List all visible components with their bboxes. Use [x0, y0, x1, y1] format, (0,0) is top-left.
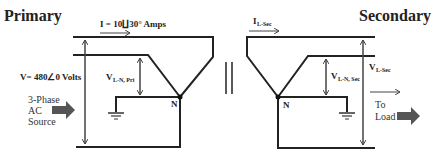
secondary-title: Secondary [359, 7, 431, 25]
secondary-vln-label: V [331, 71, 338, 81]
load-label-line2: Load [375, 111, 396, 122]
primary-title: Primary [4, 7, 62, 25]
secondary-current-subscript: L-Sec [257, 21, 272, 27]
diagram-svg: Primary I = 10∐30° Amps N V= 480∠0 Volts [0, 0, 437, 158]
load-label-line1: To [375, 99, 385, 110]
secondary-winding [247, 37, 375, 148]
ground-icon [339, 113, 355, 119]
source-label-line2: AC [28, 105, 42, 116]
ground-icon [108, 113, 124, 119]
secondary-vln-subscript: L-N, Sec [338, 76, 360, 82]
primary-vln-label: V [106, 72, 113, 82]
primary-current-label: I = 10∐30° Amps [100, 19, 166, 29]
transformer-diagram: Primary I = 10∐30° Amps N V= 480∠0 Volts [0, 0, 437, 158]
secondary-vl-label: V [369, 62, 376, 72]
primary-voltage-label: V= 480∠0 Volts [20, 72, 82, 82]
source-label-line1: 3-Phase [28, 94, 60, 105]
primary-neutral-node [178, 95, 183, 100]
primary-vln-subscript: L-N, Pri [113, 77, 135, 83]
secondary-vl-subscript: L-Sec [376, 67, 391, 73]
secondary-neutral-label: N [283, 100, 290, 110]
primary-winding [73, 37, 213, 147]
secondary-neutral-node [276, 95, 281, 100]
transformer-core-icon [226, 62, 232, 94]
source-label-line3: Source [28, 116, 56, 127]
load-arrow-icon [397, 107, 420, 125]
primary-neutral-label: N [171, 99, 178, 109]
